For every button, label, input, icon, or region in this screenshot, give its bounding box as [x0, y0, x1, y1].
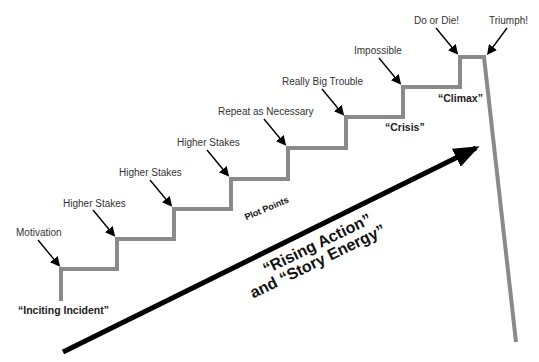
- label-do-or-die: Do or Die!: [414, 15, 459, 26]
- label-really-big-trouble: Really Big Trouble: [282, 76, 363, 87]
- pointer-arrows: [38, 28, 507, 263]
- label-crisis: “Crisis”: [385, 121, 425, 133]
- label-higher-stakes-3: Higher Stakes: [177, 137, 240, 148]
- label-higher-stakes-1: Higher Stakes: [63, 198, 126, 209]
- label-triumph: Triumph!: [489, 15, 528, 26]
- label-inciting-incident: “Inciting Incident”: [18, 304, 109, 316]
- label-repeat-as-necessary: Repeat as Necessary: [218, 106, 314, 117]
- label-impossible: Impossible: [354, 45, 402, 56]
- label-higher-stakes-2: Higher Stakes: [119, 167, 182, 178]
- label-motivation: Motivation: [16, 227, 62, 238]
- label-climax: “Climax”: [438, 92, 483, 104]
